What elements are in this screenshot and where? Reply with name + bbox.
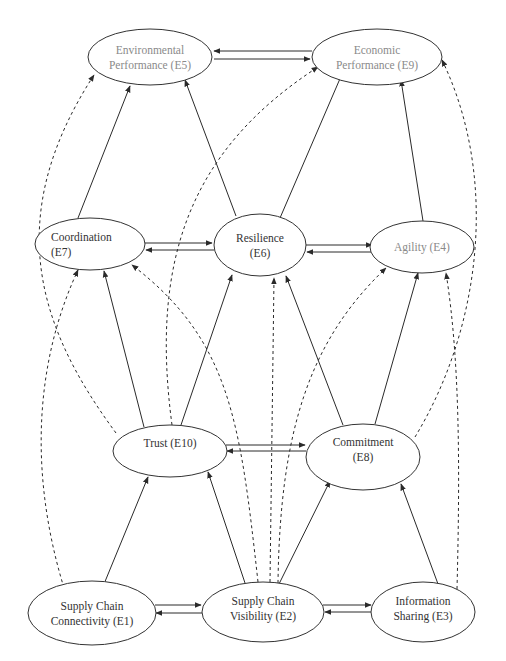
node-e5: EnvironmentalPerformance (E5) <box>88 29 212 85</box>
node-label: Visibility (E2) <box>230 610 296 623</box>
node-e7: Coordination(E7) <box>35 218 145 270</box>
node-label: Connectivity (E1) <box>51 615 134 628</box>
node-label: Sharing (E3) <box>393 610 452 623</box>
node-ellipse <box>214 214 306 276</box>
structural-model-diagram: EnvironmentalPerformance (E5)EconomicPer… <box>0 0 506 661</box>
node-label: Environmental <box>116 44 184 56</box>
node-label: Coordination <box>51 231 112 243</box>
node-label: Agility (E4) <box>394 241 450 254</box>
node-label: Supply Chain <box>232 595 295 608</box>
node-ellipse <box>28 581 156 645</box>
node-e1: Supply ChainConnectivity (E1) <box>28 581 156 645</box>
node-label: Trust (E10) <box>144 437 197 450</box>
node-e9: EconomicPerformance (E9) <box>312 29 442 85</box>
node-label: Information <box>396 595 451 607</box>
node-label: Supply Chain <box>61 600 124 613</box>
node-label: Economic <box>354 44 401 56</box>
node-ellipse <box>312 29 442 85</box>
node-label: Resilience <box>236 232 284 244</box>
node-label: (E6) <box>250 247 271 260</box>
node-label: Performance (E9) <box>336 59 418 72</box>
node-label: Commitment <box>333 436 395 448</box>
node-e2: Supply ChainVisibility (E2) <box>202 582 324 642</box>
node-ellipse <box>35 218 145 270</box>
node-e10: Trust (E10) <box>113 425 227 477</box>
node-label: Performance (E5) <box>109 59 191 72</box>
node-label: (E7) <box>51 246 72 259</box>
node-ellipse <box>88 29 212 85</box>
node-e8: Commitment(E8) <box>306 424 420 490</box>
node-label: (E8) <box>353 451 374 464</box>
node-e4: Agility (E4) <box>370 221 474 273</box>
node-e3: InformationSharing (E3) <box>371 582 475 642</box>
node-ellipse <box>113 425 227 477</box>
node-e6: Resilience(E6) <box>214 214 306 276</box>
